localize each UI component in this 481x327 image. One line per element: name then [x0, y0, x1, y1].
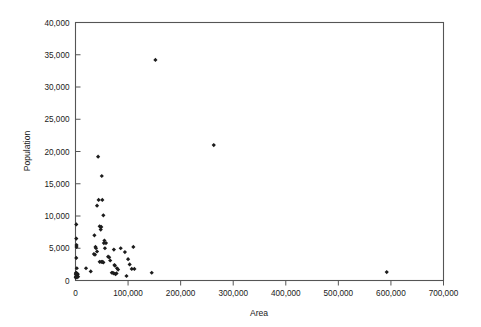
data-point: [124, 274, 128, 278]
data-point: [74, 236, 78, 240]
y-axis-tick-labels: 05,00010,00015,00020,00025,00030,00035,0…: [44, 19, 69, 286]
y-axis-title: Population: [22, 130, 32, 171]
data-point: [119, 246, 123, 250]
y-tick-label-3: 15,000: [44, 180, 69, 189]
y-tick-label-6: 30,000: [44, 83, 69, 92]
x-axis-ticks: [128, 281, 443, 286]
x-axis-title: Area: [250, 308, 268, 318]
x-tick-label-7: 700,000: [429, 289, 459, 298]
data-point: [74, 222, 78, 226]
data-point: [126, 257, 130, 261]
x-tick-label-2: 200,000: [166, 289, 196, 298]
data-point: [92, 233, 96, 237]
scatter-data-points: [74, 58, 389, 280]
data-point: [128, 262, 132, 266]
plot-frame: [76, 23, 444, 281]
data-point: [95, 204, 99, 208]
x-axis-tick-labels: 0100,000200,000300,000400,000500,000600,…: [73, 289, 459, 298]
chart-canvas: 05,00010,00015,00020,00025,00030,00035,0…: [0, 0, 481, 327]
data-point: [89, 269, 93, 273]
y-tick-label-0: 0: [65, 277, 70, 286]
data-point: [101, 213, 105, 217]
data-point: [74, 256, 78, 260]
y-axis-ticks: [76, 55, 81, 249]
data-point: [96, 155, 100, 159]
x-tick-label-5: 500,000: [324, 289, 354, 298]
data-point: [108, 258, 112, 262]
data-point: [385, 270, 389, 274]
x-tick-label-4: 400,000: [271, 289, 301, 298]
y-tick-label-5: 25,000: [44, 115, 69, 124]
y-tick-label-1: 5,000: [49, 244, 70, 253]
data-point: [212, 143, 216, 147]
data-point: [84, 266, 88, 270]
y-tick-label-2: 10,000: [44, 212, 69, 221]
data-point: [150, 271, 154, 275]
plot-area-border: [76, 23, 444, 281]
x-tick-label-3: 300,000: [218, 289, 248, 298]
data-point: [131, 245, 135, 249]
data-point: [97, 198, 101, 202]
y-tick-label-7: 35,000: [44, 51, 69, 60]
scatter-plot-figure: 05,00010,00015,00020,00025,00030,00035,0…: [0, 0, 481, 327]
y-tick-label-8: 40,000: [44, 19, 69, 28]
data-point: [153, 58, 157, 62]
data-point: [100, 174, 104, 178]
data-point: [123, 250, 127, 254]
data-point: [100, 198, 104, 202]
data-point: [132, 267, 136, 271]
data-point: [103, 246, 107, 250]
x-tick-label-1: 100,000: [113, 289, 143, 298]
x-tick-label-6: 600,000: [376, 289, 406, 298]
y-tick-label-4: 20,000: [44, 148, 69, 157]
data-point: [95, 249, 99, 253]
x-tick-label-0: 0: [73, 289, 78, 298]
data-point: [112, 247, 116, 251]
